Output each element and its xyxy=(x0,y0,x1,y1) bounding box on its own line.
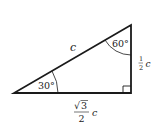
fraction-denominator: 2 xyxy=(139,64,143,72)
triangle-diagram: c 30° 60° 1 2 c √ 3 2 c xyxy=(0,0,156,129)
variable-c: c xyxy=(92,107,98,118)
radicand: 3 xyxy=(81,100,87,111)
fraction-denominator: 2 xyxy=(79,113,85,124)
fraction-numerator: 1 xyxy=(139,55,143,63)
variable-c: c xyxy=(146,59,151,69)
triangle-outline xyxy=(14,25,131,93)
right-angle-marker xyxy=(123,86,131,93)
angle-label-60: 60° xyxy=(112,38,129,49)
horizontal-leg-label: √ 3 2 c xyxy=(74,100,98,124)
sqrt-symbol: √ xyxy=(74,100,81,111)
angle-label-30: 30° xyxy=(38,80,55,91)
vertical-leg-label: 1 2 c xyxy=(139,55,151,72)
hypotenuse-label: c xyxy=(70,41,76,54)
